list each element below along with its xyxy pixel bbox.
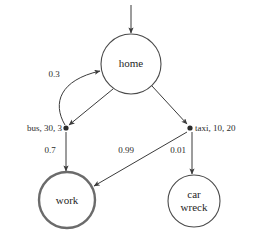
action-junction-bus[interactable]: [63, 125, 68, 130]
node-car-wreck-label-line2: wreck: [181, 201, 208, 213]
graph-canvas: home work car wreck bus, 30, 3 taxi, 10,…: [0, 0, 255, 236]
edge-label-taxi-to-work: 0.99: [118, 145, 134, 155]
edge-label-bus-to-work: 0.7: [44, 145, 56, 155]
edge-taxi-to-work: [94, 132, 187, 186]
edge-label-taxi-to-car-wreck: 0.01: [170, 145, 186, 155]
node-home-label: home: [119, 57, 144, 69]
node-car-wreck-label-line1: car: [187, 188, 201, 200]
edge-label-bus-to-home: 0.3: [48, 69, 60, 79]
edge-home-to-taxi-action: [152, 86, 187, 124]
action-label-bus: bus, 30, 3: [27, 123, 63, 133]
action-junction-taxi[interactable]: [187, 125, 192, 130]
decision-diagram: home work car wreck bus, 30, 3 taxi, 10,…: [0, 0, 255, 236]
edge-home-to-bus-action: [69, 89, 113, 125]
node-work-label: work: [56, 194, 79, 206]
action-label-taxi: taxi, 10, 20: [195, 123, 236, 133]
